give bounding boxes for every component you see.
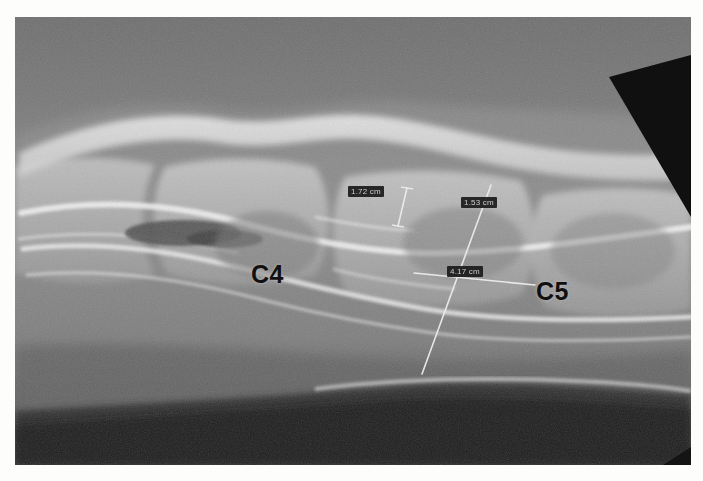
screenshot-root: C4 C5 1.72 cm 1.53 cm 4.17 cm [0, 0, 703, 481]
radiograph-image: C4 C5 1.72 cm 1.53 cm 4.17 cm [15, 17, 691, 465]
radiograph-canvas [15, 17, 691, 465]
